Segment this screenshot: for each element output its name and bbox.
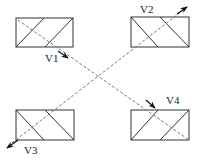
box-top-left: [16, 18, 73, 47]
dashed-line-top-left-to-bottom-right: [18, 20, 189, 140]
box-top-right: [131, 17, 189, 47]
label-v4: V4: [166, 94, 180, 106]
label-v3: V3: [24, 144, 38, 156]
diagram-canvas: V1 V2 V3 V4: [0, 0, 197, 160]
label-v1: V1: [45, 52, 58, 64]
arrow-v3-icon: [7, 140, 18, 148]
dashed-line-bottom-left-to-top-right: [8, 8, 186, 146]
arrow-v4-icon: [146, 100, 155, 108]
dashed-trajectories: [8, 8, 189, 146]
arrow-v2-icon: [177, 7, 187, 14]
box-bottom-left: [16, 110, 74, 140]
box-bottom-right: [131, 110, 189, 140]
label-v2: V2: [140, 3, 153, 15]
